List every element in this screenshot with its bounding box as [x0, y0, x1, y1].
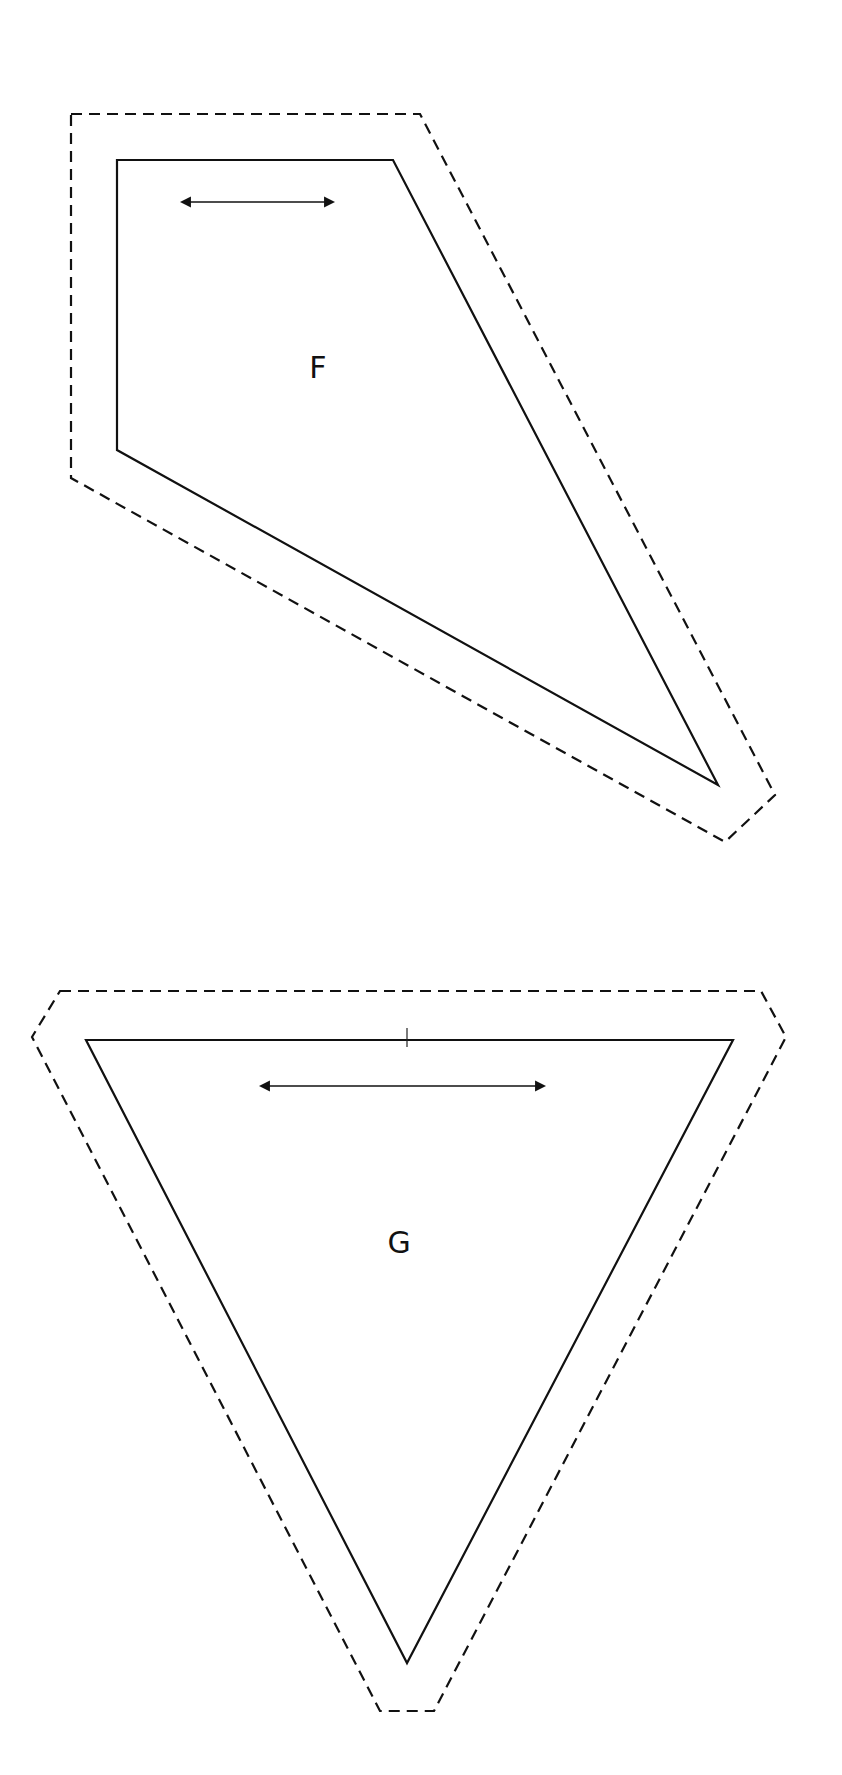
piece-f-label: F: [309, 353, 326, 383]
piece-f-cut-line: [71, 114, 775, 842]
piece-g-seam-line: [86, 1040, 733, 1663]
pattern-piece-f: [71, 114, 775, 842]
piece-g-label: G: [387, 1228, 410, 1258]
piece-g-cut-line: [32, 991, 786, 1711]
pattern-canvas: [0, 0, 842, 1775]
pattern-piece-g: [32, 991, 786, 1711]
piece-f-seam-line: [117, 160, 718, 785]
